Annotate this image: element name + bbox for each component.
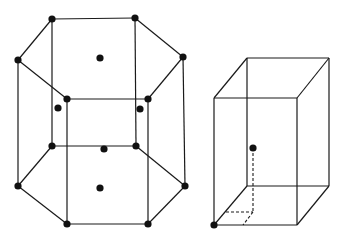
corner-atom bbox=[131, 14, 138, 21]
hex-bottom-edge bbox=[148, 186, 185, 224]
corner-atom bbox=[144, 95, 151, 102]
corner-atom bbox=[14, 182, 21, 189]
hex-bottom-edge bbox=[136, 146, 185, 186]
corner-atom bbox=[14, 56, 21, 63]
rect-edge bbox=[214, 186, 247, 225]
hex-bottom-edge bbox=[18, 146, 52, 186]
face-center-atom bbox=[96, 54, 103, 61]
rectangular-unit-cell bbox=[210, 58, 329, 229]
hex-top-edge bbox=[135, 18, 183, 57]
rect-edge bbox=[297, 186, 329, 225]
interior-atom bbox=[100, 145, 107, 152]
corner-atom bbox=[63, 95, 70, 102]
face-center-atom bbox=[96, 184, 103, 191]
corner-atom bbox=[179, 53, 186, 60]
atom bbox=[249, 144, 256, 151]
hex-top-edge bbox=[52, 18, 135, 19]
corner-atom bbox=[48, 15, 55, 22]
interior-atom bbox=[136, 105, 143, 112]
rect-edge bbox=[297, 58, 329, 98]
hex-top-edge bbox=[148, 57, 183, 99]
interior-atom bbox=[54, 104, 61, 111]
corner-atom bbox=[132, 142, 139, 149]
corner-atom bbox=[63, 220, 70, 227]
dashed-guide bbox=[243, 212, 253, 225]
crystal-lattice-diagram bbox=[0, 0, 341, 236]
corner-atom bbox=[181, 182, 188, 189]
hex-vertical-edge bbox=[135, 18, 136, 146]
hex-top-edge bbox=[18, 19, 52, 60]
corner-atom bbox=[144, 220, 151, 227]
corner-atom bbox=[48, 142, 55, 149]
hexagonal-unit-cell bbox=[14, 14, 188, 227]
hex-bottom-edge bbox=[18, 186, 67, 224]
atom bbox=[210, 221, 217, 228]
rect-edge bbox=[214, 58, 247, 98]
hex-top-edge bbox=[18, 60, 67, 99]
hex-vertical-edge bbox=[183, 57, 185, 186]
